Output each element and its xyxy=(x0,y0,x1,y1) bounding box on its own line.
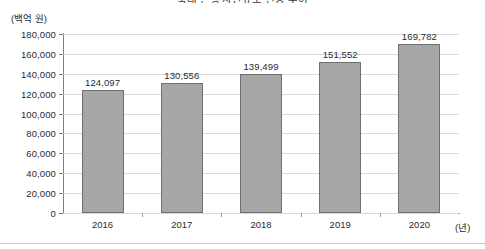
bar: 169,782 xyxy=(398,44,440,213)
y-axis-tick xyxy=(59,34,63,35)
chart-title: 국내 은행 자산규모 변동 추이 xyxy=(0,0,485,3)
bar-chart-figure: 국내 은행 자산규모 변동 추이 (백억 원) 020,00040,00060,… xyxy=(0,0,485,249)
y-axis-tick xyxy=(59,153,63,154)
x-axis-tick-label: 2017 xyxy=(171,219,192,230)
y-axis-tick-label: 20,000 xyxy=(26,188,56,199)
bar-value-label: 169,782 xyxy=(402,31,437,42)
y-axis-tick xyxy=(59,213,63,214)
x-axis-tick-label: 2020 xyxy=(409,219,430,230)
bar: 130,556 xyxy=(161,83,203,213)
x-axis-tick xyxy=(380,213,381,217)
y-axis-unit-label: (백억 원) xyxy=(11,11,47,25)
bar-value-label: 139,499 xyxy=(243,61,278,72)
bottom-divider xyxy=(0,243,485,244)
y-axis-tick-label: 100,000 xyxy=(21,108,56,119)
bar: 139,499 xyxy=(240,74,282,213)
bar-value-label: 130,556 xyxy=(164,70,199,81)
y-axis-tick xyxy=(59,74,63,75)
y-axis-tick-label: 140,000 xyxy=(21,68,56,79)
x-axis-tick xyxy=(221,213,222,217)
bar-value-label: 151,552 xyxy=(323,49,358,60)
gridline xyxy=(63,213,459,214)
y-axis-tick xyxy=(59,114,63,115)
y-axis-tick-label: 120,000 xyxy=(21,88,56,99)
x-axis-tick-label: 2018 xyxy=(250,219,271,230)
gridline xyxy=(63,34,459,35)
y-axis-tick-label: 60,000 xyxy=(26,148,56,159)
y-axis-tick xyxy=(59,94,63,95)
x-axis-tick xyxy=(301,213,302,217)
x-axis-tick-label: 2016 xyxy=(92,219,113,230)
x-axis-tick-label: 2019 xyxy=(330,219,351,230)
y-axis-tick xyxy=(59,54,63,55)
bar: 124,097 xyxy=(82,90,124,213)
y-axis-tick-label: 40,000 xyxy=(26,168,56,179)
y-axis-tick-label: 160,000 xyxy=(21,48,56,59)
y-axis-tick-label: 180,000 xyxy=(21,29,56,40)
y-axis-tick-label: 0 xyxy=(51,208,56,219)
y-axis-tick xyxy=(59,193,63,194)
plot-area: 020,00040,00060,00080,000100,000120,0001… xyxy=(63,34,459,213)
y-axis-tick-label: 80,000 xyxy=(26,128,56,139)
x-axis-tick xyxy=(142,213,143,217)
y-axis-tick xyxy=(59,173,63,174)
y-axis-tick xyxy=(59,133,63,134)
bar: 151,552 xyxy=(319,62,361,213)
x-axis-unit-label: (년) xyxy=(455,220,470,234)
bar-value-label: 124,097 xyxy=(85,77,120,88)
